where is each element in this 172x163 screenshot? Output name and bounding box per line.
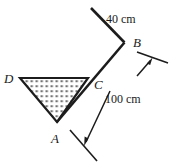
dimension-tick-lower [70, 130, 97, 161]
dimension-label-40cm: 40 cm [106, 12, 136, 26]
vertex-label-C: C [94, 77, 103, 92]
vertex-label-D: D [3, 71, 14, 86]
figure-root: D B C A 40 cm 100 cm [0, 0, 172, 163]
dimension-arrowhead-upper [147, 58, 153, 65]
vertex-label-A: A [50, 131, 59, 146]
diagram-canvas: D B C A 40 cm 100 cm [0, 0, 172, 163]
dimension-upper-group [137, 52, 168, 76]
vertex-label-B: B [133, 35, 141, 50]
dimension-label-100cm: 100 cm [105, 92, 141, 106]
liquid-region [20, 78, 88, 122]
liquid-fill [20, 78, 88, 122]
